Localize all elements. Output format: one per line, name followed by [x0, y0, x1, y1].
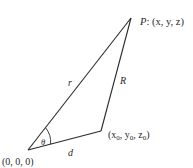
edge-d — [28, 131, 101, 150]
label-source-point: (x0, y0, z0) — [108, 129, 150, 142]
label-P: P: (x, y, z) — [139, 16, 184, 28]
label-R: R — [119, 75, 126, 86]
label-r: r — [68, 77, 72, 88]
angle-arc — [46, 128, 51, 145]
label-d: d — [68, 147, 74, 158]
label-origin: (0, 0, 0) — [2, 156, 34, 168]
label-theta: θ — [41, 137, 45, 147]
diagram-canvas: P: (x, y, z) r R θ d (0, 0, 0) (x0, y0, … — [0, 0, 193, 168]
edge-R — [101, 18, 131, 131]
